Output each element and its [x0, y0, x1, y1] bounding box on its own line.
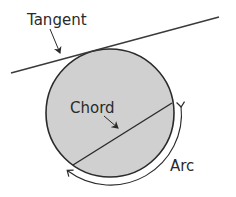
diagram-svg: Tangent Chord Arc — [0, 0, 236, 197]
arc-label: Arc — [170, 157, 194, 175]
chord-label: Chord — [70, 99, 115, 117]
tangent-label: Tangent — [26, 11, 87, 29]
circle-diagram: Tangent Chord Arc — [0, 0, 236, 197]
tangent-pointer-arrow — [50, 29, 60, 53]
